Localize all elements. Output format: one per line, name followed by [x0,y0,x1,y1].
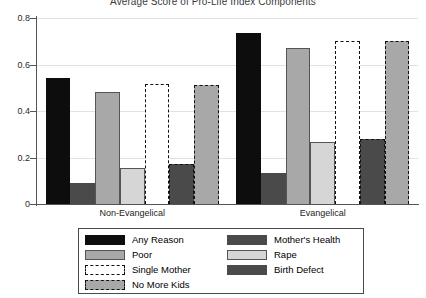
legend-swatch-icon [85,250,125,260]
legend-entry[interactable]: Single Mother [85,263,191,277]
legend-swatch-icon [227,265,267,275]
bar [194,85,219,204]
legend-column-right: Mother's HealthRapeBirth Defect [227,233,340,278]
legend-entry[interactable]: Mother's Health [227,233,340,247]
plot-area [37,18,418,204]
y-tick-label: 0.2 [4,153,30,163]
legend-column-left: Any ReasonPoorSingle MotherNo More Kids [85,233,191,293]
legend-swatch-icon [227,250,267,260]
y-tick-label: 0.6 [4,60,30,70]
legend-entry[interactable]: No More Kids [85,278,191,292]
legend-label: Any Reason [132,235,184,245]
legend-entry[interactable]: Rape [227,248,340,262]
x-axis-line [36,204,419,205]
legend-label: Poor [132,250,152,260]
legend-label: Rape [274,250,297,260]
bar [169,164,194,204]
bar [385,41,410,204]
legend-label: No More Kids [132,280,190,290]
bar [236,33,261,204]
y-tick-mark [30,204,36,205]
bar [360,139,385,204]
bar [261,173,286,204]
chart-legend: Any ReasonPoorSingle MotherNo More Kids … [78,228,364,294]
legend-entry[interactable]: Birth Defect [227,263,340,277]
legend-swatch-icon [227,235,267,245]
legend-entry[interactable]: Poor [85,248,191,262]
y-tick-mark [30,18,36,19]
bar [120,168,145,204]
legend-label: Birth Defect [274,265,324,275]
bar [46,78,71,204]
bar [335,41,360,204]
bar [310,142,335,204]
bar [70,183,95,204]
chart-title: Average Score of Pro-Life Index Componen… [0,0,426,7]
legend-swatch-icon [85,280,125,290]
gridline [37,18,418,19]
y-tick-label: 0 [4,199,30,209]
y-tick-mark [30,65,36,66]
gridline [37,65,418,66]
bar [145,84,170,204]
y-tick-mark [30,111,36,112]
x-tick-label: Non-Evangelical [99,208,165,218]
y-tick-mark [30,158,36,159]
bar [95,92,120,204]
legend-entry[interactable]: Any Reason [85,233,191,247]
legend-label: Single Mother [132,265,191,275]
chart-figure: Average Score of Pro-Life Index Componen… [0,0,426,298]
legend-swatch-icon [85,265,125,275]
x-tick-label: Evangelical [300,208,346,218]
y-tick-label: 0.4 [4,106,30,116]
bar [286,48,311,204]
legend-swatch-icon [85,235,125,245]
y-tick-label: 0.8 [4,13,30,23]
legend-label: Mother's Health [274,235,340,245]
